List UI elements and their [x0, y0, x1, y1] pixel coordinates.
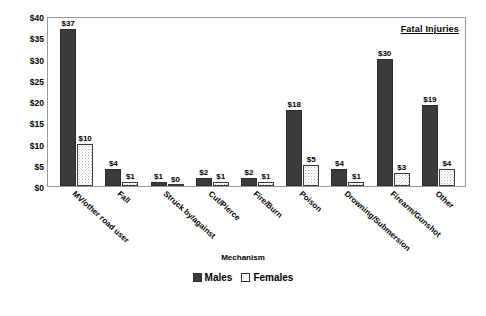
bar-males: $4 — [331, 169, 347, 186]
x-axis-tick: Drowning/Submersion — [326, 188, 371, 250]
y-axis-tick-label: $35 — [30, 35, 44, 44]
y-axis-tick-label: $25 — [30, 78, 44, 87]
bar-group: $37$10 — [54, 18, 99, 186]
x-axis-tick: Fall — [98, 188, 143, 250]
bar-column: $18 — [286, 18, 302, 186]
bar-column: $4 — [331, 18, 347, 186]
bar-column: $1 — [151, 18, 167, 186]
bar-group: $4$1 — [99, 18, 144, 186]
bar-group: $1$0 — [144, 18, 189, 186]
x-axis-tick: Struck by/against — [144, 188, 189, 250]
y-axis-tick-label: $15 — [30, 120, 44, 129]
plot-area: Fatal Injuries $0$5$10$15$20$25$30$35$40… — [47, 17, 466, 187]
bar-value-label: $1 — [154, 173, 163, 181]
bar-column: $5 — [303, 18, 319, 186]
x-axis-tick: Poison — [280, 188, 325, 250]
x-axis-tick: MV/other road user — [53, 188, 98, 250]
bar-group: $18$5 — [280, 18, 325, 186]
y-axis-tick-label: $40 — [30, 14, 44, 23]
bar-females: $1 — [258, 182, 274, 186]
bar-males: $1 — [151, 182, 167, 186]
bar-females: $5 — [303, 165, 319, 186]
x-axis-tick-label: Other — [434, 190, 455, 210]
bar-column: $3 — [394, 18, 410, 186]
x-axis-tick-label: Poison — [298, 190, 323, 214]
bar-value-label: $37 — [61, 20, 74, 28]
chart-legend: MalesFemales — [0, 272, 486, 283]
bar-column: $1 — [258, 18, 274, 186]
x-axis-tick: Firearm/Gunshot — [371, 188, 416, 250]
legend-item-females[interactable]: Females — [241, 272, 293, 283]
x-axis-tick-label: Fire/Burn — [252, 190, 284, 220]
bar-value-label: $18 — [288, 101, 301, 109]
bar-value-label: $2 — [245, 169, 254, 177]
bar-value-label: $1 — [352, 173, 361, 181]
bar-value-label: $4 — [109, 160, 118, 168]
bar-value-label: $1 — [216, 173, 225, 181]
bar-females: $1 — [213, 182, 229, 186]
bar-value-label: $1 — [262, 173, 271, 181]
bar-column: $30 — [377, 18, 393, 186]
bar-column: $1 — [213, 18, 229, 186]
legend-label: Males — [205, 272, 233, 283]
bar-males: $37 — [60, 29, 76, 186]
bar-column: $37 — [60, 18, 76, 186]
bar-value-label: $3 — [397, 164, 406, 172]
bar-group: $30$3 — [371, 18, 416, 186]
y-axis-tick-label: $20 — [30, 99, 44, 108]
bar-females: $0 — [168, 184, 184, 186]
bar-column: $1 — [122, 18, 138, 186]
bar-column: $10 — [77, 18, 93, 186]
bar-males: $18 — [286, 110, 302, 187]
bar-group: $19$4 — [416, 18, 461, 186]
bar-column: $2 — [196, 18, 212, 186]
bar-males: $19 — [422, 105, 438, 186]
bar-column: $4 — [439, 18, 455, 186]
x-axis-title: Mechanism — [0, 253, 486, 262]
bar-value-label: $2 — [199, 169, 208, 177]
bar-value-label: $5 — [307, 156, 316, 164]
bar-females: $1 — [122, 182, 138, 186]
bar-chart: Fatal Injuries $0$5$10$15$20$25$30$35$40… — [0, 0, 486, 316]
bar-column: $1 — [348, 18, 364, 186]
bar-group: $2$1 — [190, 18, 235, 186]
bars-container: $37$10$4$1$1$0$2$1$2$1$18$5$4$1$30$3$19$… — [48, 18, 465, 186]
bar-value-label: $30 — [378, 50, 391, 58]
bar-females: $3 — [394, 173, 410, 186]
bar-males: $2 — [196, 178, 212, 187]
x-axis-category-labels: MV/other road userFallStruck by/againstC… — [47, 188, 466, 250]
bar-value-label: $0 — [171, 176, 180, 184]
bar-males: $4 — [105, 169, 121, 186]
bar-value-label: $4 — [335, 160, 344, 168]
bar-females: $4 — [439, 169, 455, 186]
legend-swatch-icon — [241, 273, 250, 282]
legend-item-males[interactable]: Males — [193, 272, 233, 283]
bar-females: $1 — [348, 182, 364, 186]
bar-column: $4 — [105, 18, 121, 186]
bar-males: $2 — [241, 178, 257, 187]
x-axis-tick-label: Fall — [116, 190, 132, 205]
bar-value-label: $10 — [78, 135, 91, 143]
y-axis-tick-label: $10 — [30, 141, 44, 150]
y-axis-tick-label: $30 — [30, 56, 44, 65]
bar-column: $2 — [241, 18, 257, 186]
bar-value-label: $19 — [423, 96, 436, 104]
bar-value-label: $4 — [442, 160, 451, 168]
x-axis-tick: Cut/Pierce — [189, 188, 234, 250]
legend-label: Females — [253, 272, 293, 283]
y-axis-tick-label: $5 — [35, 163, 44, 172]
bar-females: $10 — [77, 144, 93, 187]
bar-column: $0 — [168, 18, 184, 186]
legend-swatch-icon — [193, 273, 202, 282]
x-axis-tick: Other — [417, 188, 462, 250]
bar-group: $2$1 — [235, 18, 280, 186]
bar-value-label: $1 — [126, 173, 135, 181]
bar-males: $30 — [377, 59, 393, 187]
x-axis-tick: Fire/Burn — [235, 188, 280, 250]
bar-column: $19 — [422, 18, 438, 186]
y-axis-tick-label: $0 — [35, 184, 44, 193]
bar-group: $4$1 — [325, 18, 370, 186]
